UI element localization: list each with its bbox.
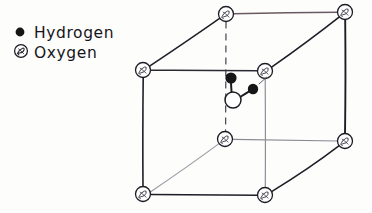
- vertex-atom-bottom-back-right: [338, 134, 353, 149]
- hatched-circle-icon: [15, 45, 28, 58]
- legend-item-hydrogen: Hydrogen: [16, 24, 115, 42]
- edge-bottom-front-edge: [151, 194, 258, 195]
- vertex-atom-bottom-back-left: [218, 132, 233, 147]
- vertex-atom-bottom-front-left: [136, 187, 151, 202]
- legend-label-hydrogen: Hydrogen: [34, 24, 114, 42]
- vertex-atom-top-front-left: [136, 63, 151, 78]
- edge-top-back-edge: [234, 12, 338, 14]
- bond-o-h-right: [240, 91, 249, 97]
- cube-vertex-atoms: [136, 5, 353, 203]
- edge-bottom-left-edge: [150, 144, 219, 193]
- vertex-atom-top-front-right: [258, 64, 273, 79]
- legend: Hydrogen Oxygen: [15, 24, 115, 62]
- vertex-atom-top-back-right: [338, 5, 353, 20]
- cube-edges: [143, 12, 346, 195]
- edge-bottom-right-edge: [272, 146, 340, 192]
- water-molecule: [225, 72, 267, 108]
- central-oxygen-atom: [225, 92, 241, 108]
- legend-label-oxygen: Oxygen: [34, 44, 97, 62]
- edge-top-left-edge: [149, 18, 219, 66]
- unit-cell-diagram: Hydrogen Oxygen: [0, 0, 372, 213]
- vertex-atom-top-back-left: [219, 7, 234, 22]
- edge-top-right-edge: [272, 17, 340, 67]
- hydrogen-atom-upper: [225, 72, 236, 83]
- filled-dot-icon: [16, 28, 25, 37]
- legend-item-oxygen: Oxygen: [15, 44, 98, 62]
- edge-top-front-edge: [150, 70, 257, 71]
- vertex-atom-bottom-front-right: [258, 188, 273, 203]
- diagram-canvas: Hydrogen Oxygen: [0, 0, 372, 213]
- hydrogen-atom-right: [248, 84, 258, 94]
- edge-bottom-back-edge: [233, 139, 338, 141]
